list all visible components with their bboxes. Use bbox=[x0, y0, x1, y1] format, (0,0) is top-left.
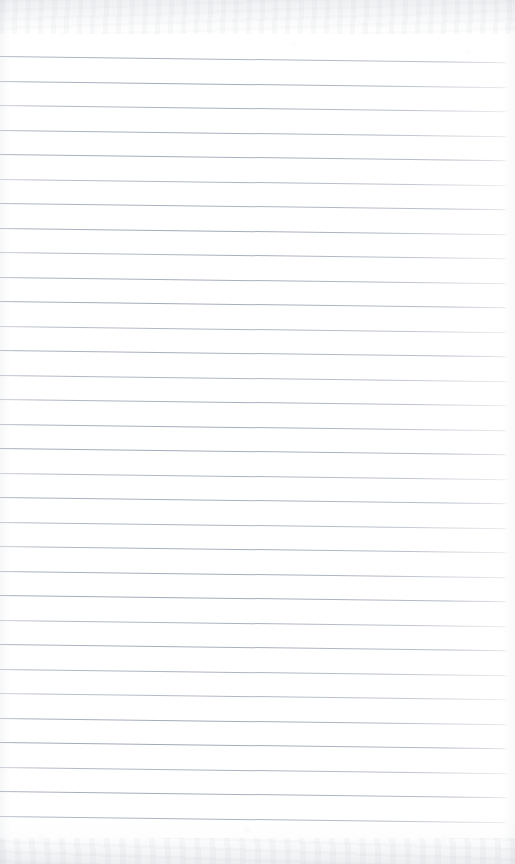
scanned-page bbox=[0, 0, 515, 864]
page-writing-area[interactable] bbox=[0, 0, 515, 864]
